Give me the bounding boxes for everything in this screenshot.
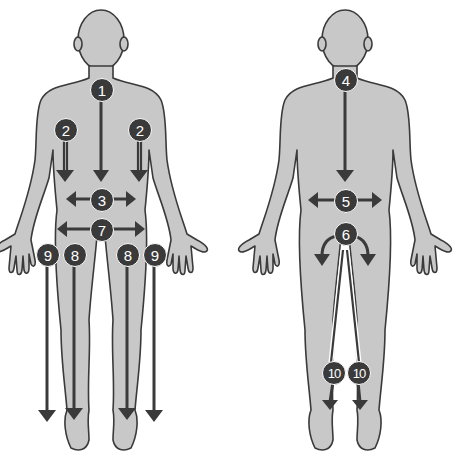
marker-3: 3 bbox=[90, 188, 114, 212]
body-figures bbox=[0, 0, 453, 460]
marker-4: 4 bbox=[334, 68, 358, 92]
body-measurement-diagram: 1 2 2 3 7 9 8 8 9 4 5 6 10 10 bbox=[0, 0, 453, 460]
marker-6: 6 bbox=[334, 222, 358, 246]
marker-10-left: 10 bbox=[322, 361, 346, 385]
marker-8-left: 8 bbox=[63, 243, 87, 267]
marker-9-left: 9 bbox=[36, 243, 60, 267]
marker-8-right: 8 bbox=[116, 243, 140, 267]
marker-9-right: 9 bbox=[143, 243, 167, 267]
marker-2-left: 2 bbox=[54, 118, 78, 142]
marker-1: 1 bbox=[90, 78, 114, 102]
marker-5: 5 bbox=[334, 189, 358, 213]
marker-10-right: 10 bbox=[347, 361, 371, 385]
marker-7: 7 bbox=[90, 218, 114, 242]
marker-2-right: 2 bbox=[128, 118, 152, 142]
